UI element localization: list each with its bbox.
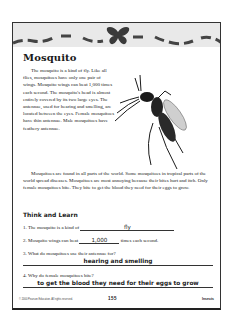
- question-3: 3. What do mosquitoes use their antennae…: [23, 251, 116, 256]
- answer-1-field[interactable]: fly: [80, 224, 174, 231]
- page-title: Mosquito: [23, 52, 77, 63]
- answer-3-field[interactable]: hearing and smelling: [23, 258, 213, 266]
- worksheet-page: Mosquito The mosquito is a kind of fly. …: [12, 22, 221, 310]
- body-paragraph: Mosquitoes are found in all parts of the…: [23, 171, 215, 191]
- question-4: 4. Why do female mosquitoes bite?: [23, 273, 94, 278]
- answer-2-field[interactable]: 1,000: [79, 237, 119, 244]
- question-1: 1. The mosquito is a kind of fly: [23, 224, 174, 231]
- answer-4-field[interactable]: to get the blood they need for their egg…: [23, 280, 213, 288]
- copyright-notice: © 2000 Pearson Education. All rights res…: [19, 298, 73, 301]
- page-number: 155: [108, 296, 117, 301]
- butterfly-icon: [106, 26, 130, 46]
- section-heading: Think and Learn: [23, 211, 78, 218]
- section-label: Insects: [202, 297, 214, 301]
- question-2: 2. Mosquito wings can beat 1,000 times e…: [23, 237, 158, 244]
- decorative-banner: [13, 23, 220, 47]
- mosquito-illustration-icon: [95, 73, 215, 173]
